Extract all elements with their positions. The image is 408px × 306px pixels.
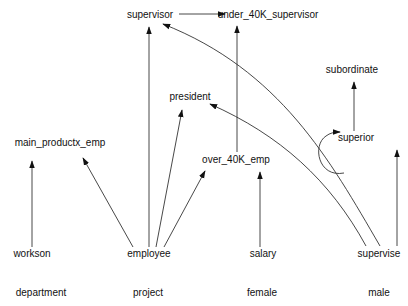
node-workson: workson bbox=[12, 248, 50, 259]
node-over-40k-emp: over_40K_emp bbox=[202, 154, 270, 165]
node-under-40k-supervisor: under_40K_supervisor bbox=[218, 9, 319, 20]
node-salary: salary bbox=[250, 248, 277, 259]
edge-employee-to-over_40K_emp bbox=[164, 171, 205, 247]
concept-graph: supervisorunder_40K_supervisorsubordinat… bbox=[0, 0, 408, 306]
edge-employee-to-president bbox=[156, 110, 182, 247]
edge-employee-to-main_productx_emp bbox=[83, 158, 133, 247]
node-department: department bbox=[16, 287, 67, 298]
node-employee: employee bbox=[127, 248, 171, 259]
node-male: male bbox=[368, 287, 390, 298]
node-president: president bbox=[169, 91, 210, 102]
node-superior: superior bbox=[338, 132, 375, 143]
node-main-productx-emp: main_productx_emp bbox=[15, 137, 106, 148]
node-supervisor: supervisor bbox=[127, 9, 174, 20]
node-project: project bbox=[133, 287, 163, 298]
node-female: female bbox=[247, 287, 277, 298]
node-supervise: supervise bbox=[358, 248, 401, 259]
edge-supervise-to-president bbox=[210, 104, 366, 246]
node-subordinate: subordinate bbox=[326, 64, 379, 75]
